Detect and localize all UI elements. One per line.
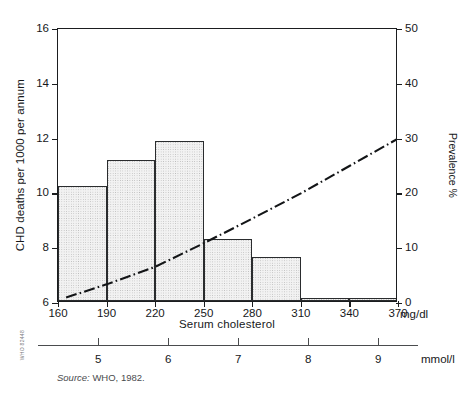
y2-axis-title-label: Prevalence %	[447, 133, 459, 198]
axis-tick-label: 20	[405, 188, 418, 200]
axis-tick	[396, 248, 402, 249]
mmol-axis-tick	[98, 338, 99, 345]
mmol-axis-tick	[238, 338, 239, 345]
y-axis-title: CHD deaths per 1000 per annum	[12, 28, 28, 302]
y2-axis-title: Prevalence %	[445, 28, 461, 302]
axis-tick-label: 8	[43, 242, 49, 254]
source-note-prefix: Source:	[57, 372, 90, 383]
source-note-text: WHO, 1982.	[92, 372, 144, 383]
axis-tick-label: 16	[36, 23, 49, 35]
mmol-axis-tick-label: 8	[305, 353, 311, 365]
plot-area: 6810121416 01020304050 16019022025028031…	[57, 28, 397, 302]
bar	[252, 257, 301, 301]
plot-inner	[58, 29, 396, 301]
mmol-axis-tick-label: 6	[165, 353, 171, 365]
axis-tick-label: 14	[36, 78, 49, 90]
y-axis-title-label: CHD deaths per 1000 per annum	[14, 79, 26, 251]
bar	[58, 186, 107, 301]
axis-tick	[52, 84, 58, 85]
x-axis-unit-mgdl: mg/dl	[400, 308, 428, 320]
plate-code: WHO 82448	[16, 325, 28, 365]
x-axis-unit-mmol: mmol/l	[421, 353, 455, 365]
bar	[349, 298, 396, 301]
source-note: Source: WHO, 1982.	[57, 372, 145, 383]
axis-tick	[396, 29, 402, 30]
axis-tick	[396, 84, 402, 85]
bar	[301, 298, 350, 301]
axis-tick	[396, 193, 402, 194]
axis-tick-label: 12	[36, 133, 49, 145]
mmol-axis-tick-label: 5	[95, 353, 101, 365]
axis-tick-label: 30	[405, 133, 418, 145]
x-axis-secondary-mmol: 56789	[38, 345, 418, 346]
axis-tick	[396, 139, 402, 140]
figure-canvas: CHD deaths per 1000 per annum Prevalence…	[0, 0, 467, 394]
axis-tick-label: 10	[36, 188, 49, 200]
bar	[155, 141, 204, 301]
axis-tick	[52, 193, 58, 194]
mmol-axis-tick	[308, 338, 309, 345]
mmol-axis-tick	[168, 338, 169, 345]
mmol-axis-tick	[378, 338, 379, 345]
axis-tick	[52, 29, 58, 30]
bar	[107, 160, 156, 301]
bar	[204, 239, 253, 301]
mmol-axis-tick-label: 7	[235, 353, 241, 365]
axis-tick	[52, 139, 58, 140]
axis-tick	[52, 248, 58, 249]
axis-tick-label: 50	[405, 23, 418, 35]
axis-tick-label: 40	[405, 78, 418, 90]
mmol-axis-tick-label: 9	[375, 353, 381, 365]
x-axis-title: Serum cholesterol	[57, 318, 397, 330]
axis-tick-label: 10	[405, 242, 418, 254]
plate-code-label: WHO 82448	[19, 330, 25, 360]
